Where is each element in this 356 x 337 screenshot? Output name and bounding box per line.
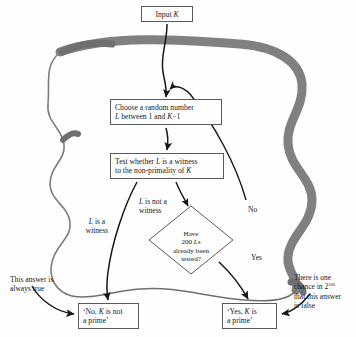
arrow-choose-to-test: [166, 128, 168, 150]
annotation-always-true: This answer isalways true: [10, 266, 76, 294]
edge-label-witness: L is awitness: [76, 208, 118, 236]
edge-label-yes: Yes: [251, 253, 262, 262]
annotation-one-chance: There is onechance in 2200that this answ…: [294, 264, 354, 310]
arrow-input-to-choose: [162, 24, 167, 97]
node-result-not-prime: ‘No, K is nota prime’: [78, 303, 139, 329]
edge-label-no: No: [248, 205, 257, 214]
decision-label: Have200 Lsalready beentested?: [167, 222, 215, 263]
arrow-witness-to-no-prime: [107, 182, 137, 300]
edge-label-not-witness: L is not awitness: [139, 188, 187, 216]
node-input: Input K: [141, 6, 193, 22]
flowchart-diagram: Input K Choose a random numberL between …: [0, 0, 356, 337]
node-choose-random-number: Choose a random numberL between 1 and K−…: [110, 99, 222, 125]
node-result-prime: ‘Yes, K isa prime’: [222, 303, 277, 329]
arrow-yes-to-yes-prime: [219, 262, 248, 299]
loop-band-left: [48, 52, 72, 296]
node-test-witness: Test whether L is a witnessto the non-pr…: [110, 153, 224, 179]
loop-band-bottom: [72, 288, 296, 300]
loop-accent-mid: [63, 133, 78, 140]
